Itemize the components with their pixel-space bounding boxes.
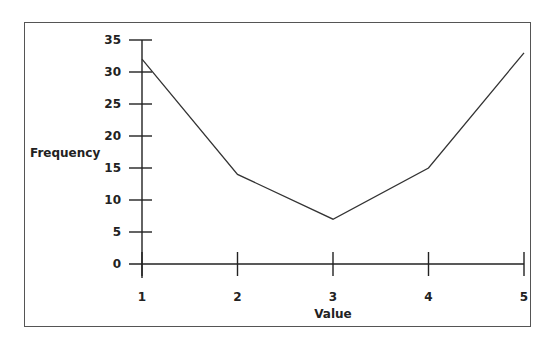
x-axis: 12345 (129, 252, 528, 304)
y-tick-label: 35 (104, 33, 121, 47)
x-tick-label: 2 (233, 290, 241, 304)
y-axis-title: Frequency (30, 146, 100, 160)
y-tick-label: 5 (113, 225, 121, 239)
y-tick-label: 25 (104, 97, 121, 111)
data-series (142, 53, 524, 219)
x-tick-label: 4 (424, 290, 432, 304)
x-tick-label: 3 (329, 290, 337, 304)
y-tick-label: 20 (104, 129, 121, 143)
y-tick-label: 10 (104, 193, 121, 207)
x-tick-label: 5 (520, 290, 528, 304)
y-tick-label: 30 (104, 65, 121, 79)
y-axis: 05101520253035 (104, 33, 152, 278)
series-line (142, 53, 524, 219)
x-axis-title: Value (314, 307, 352, 321)
line-chart: 05101520253035 12345 Frequency Value (0, 0, 551, 345)
y-tick-label: 0 (113, 257, 121, 271)
y-tick-label: 15 (104, 161, 121, 175)
x-tick-label: 1 (138, 290, 146, 304)
